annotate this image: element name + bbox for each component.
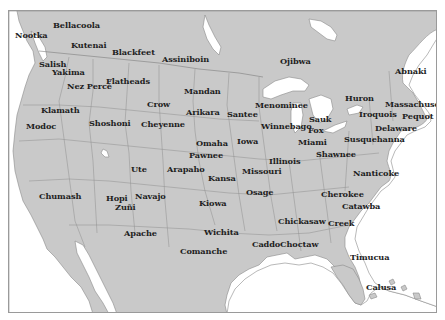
tribe-label-chumash: Chumash <box>39 192 81 200</box>
tribe-label-crow: Crow <box>147 100 170 108</box>
tribe-label-mandan: Mandan <box>184 87 221 95</box>
tribe-label-kiowa: Kiowa <box>199 199 227 207</box>
tribe-label-wichita: Wichita <box>204 228 239 236</box>
tribe-label-apache: Apache <box>124 229 157 237</box>
tribe-label-ute: Ute <box>131 165 147 173</box>
tribe-label-flatheads: Flatheads <box>106 77 150 85</box>
tribe-label-blackfeet: Blackfeet <box>112 48 155 56</box>
tribe-label-iroquois: Iroquois <box>359 110 397 118</box>
map-frame: BellacoolaNootkaKutenaiBlackfeetAssinibo… <box>8 10 437 313</box>
tribe-label-klamath: Klamath <box>41 106 80 114</box>
tribe-label-sauk: Sauk <box>309 115 331 123</box>
tribe-label-creek: Creek <box>328 219 354 227</box>
tribe-label-nootka: Nootka <box>15 31 48 39</box>
tribe-label-chickasaw: Chickasaw <box>278 217 326 225</box>
tribe-label-iowa: Iowa <box>237 137 258 145</box>
tribe-label-missouri: Missouri <box>242 167 281 175</box>
tribe-label-arapaho: Arapaho <box>167 165 205 173</box>
tribe-label-illinois: Illinois <box>269 157 301 165</box>
tribe-label-fox: Fox <box>308 126 323 134</box>
tribe-label-cherokee: Cherokee <box>321 190 364 198</box>
tribe-label-bellacoola: Bellacoola <box>53 21 100 29</box>
tribe-label-yakima: Yakima <box>52 68 85 76</box>
tribe-label-pequot: Pequot <box>402 112 433 120</box>
tribe-label-zu-i: Zuñi <box>115 203 136 211</box>
tribe-label-caddo: Caddo <box>252 240 280 248</box>
tribe-label-calusa: Calusa <box>366 283 396 291</box>
tribe-label-shoshoni: Shoshoni <box>89 119 131 127</box>
tribe-label-omaha: Omaha <box>196 139 228 147</box>
tribe-label-comanche: Comanche <box>180 247 227 255</box>
tribe-label-timucua: Timucua <box>350 253 389 261</box>
map-base <box>9 11 437 313</box>
tribe-label-cheyenne: Cheyenne <box>141 120 185 128</box>
tribe-label-massachuset: Massachuset <box>385 100 437 108</box>
tribe-label-choctaw: Choctaw <box>280 240 318 248</box>
tribe-label-pawnee: Pawnee <box>189 151 223 159</box>
tribe-label-miami: Miami <box>298 138 327 146</box>
tribe-label-nanticoke: Nanticoke <box>353 169 399 177</box>
tribe-label-assiniboin: Assiniboin <box>162 55 209 63</box>
tribe-label-hopi: Hopi <box>106 194 128 202</box>
tribe-label-menominee: Menominee <box>255 101 308 109</box>
tribe-label-osage: Osage <box>246 188 273 196</box>
tribe-label-modoc: Modoc <box>26 122 56 130</box>
tribe-label-santee: Santee <box>227 110 258 118</box>
tribe-label-abnaki: Abnaki <box>395 67 427 75</box>
tribe-label-navajo: Navajo <box>135 192 166 200</box>
tribe-label-huron: Huron <box>345 94 374 102</box>
tribe-label-catawba: Catawba <box>342 202 380 210</box>
tribe-label-shawnee: Shawnee <box>316 150 356 158</box>
tribe-label-winnebago: Winnebago <box>261 122 312 130</box>
tribe-label-delaware: Delaware <box>375 124 417 132</box>
tribe-label-arikara: Arikara <box>186 108 220 116</box>
tribe-label-kutenai: Kutenai <box>71 41 107 49</box>
tribe-label-susquehanna: Susquehanna <box>344 135 405 143</box>
tribe-label-kansa: Kansa <box>208 174 236 182</box>
tribe-label-ojibwa: Ojibwa <box>280 57 311 65</box>
